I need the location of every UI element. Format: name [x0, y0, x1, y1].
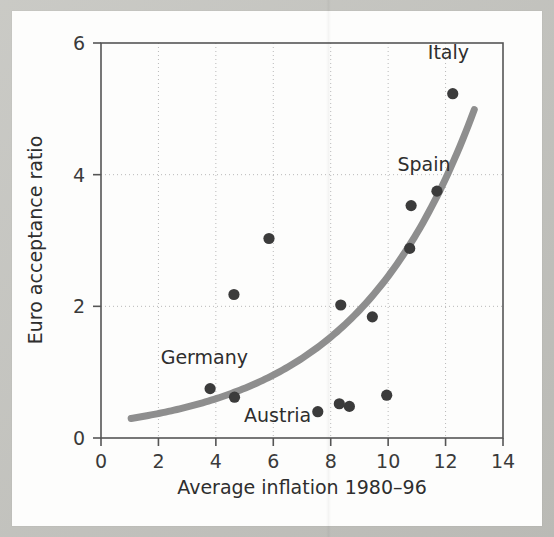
y-axis-title: Euro acceptance ratio — [24, 136, 46, 345]
data-point-spain — [431, 186, 442, 197]
data-point — [381, 390, 392, 401]
x-tick-label: 6 — [267, 450, 279, 472]
chart-container: 024681012140246 ItalySpainGermanyAustria… — [0, 0, 554, 537]
y-tick-label: 2 — [73, 295, 85, 317]
axis-ticks — [93, 43, 503, 446]
y-tick-label: 6 — [73, 32, 85, 54]
data-point — [344, 401, 355, 412]
data-point — [335, 299, 346, 310]
data-point — [263, 233, 274, 244]
x-tick-label: 12 — [433, 450, 457, 472]
x-tick-label: 0 — [95, 450, 107, 472]
data-point-germany — [205, 383, 216, 394]
x-tick-label: 8 — [325, 450, 337, 472]
annotation-italy: Italy — [428, 41, 469, 63]
data-point — [367, 311, 378, 322]
annotation-spain: Spain — [397, 153, 450, 175]
data-point — [404, 243, 415, 254]
plot-frame — [101, 43, 503, 438]
x-axis-title: Average inflation 1980–96 — [177, 476, 426, 498]
x-tick-label: 4 — [210, 450, 222, 472]
x-tick-label: 10 — [376, 450, 400, 472]
y-tick-label: 0 — [73, 427, 85, 449]
x-tick-label: 2 — [152, 450, 164, 472]
y-tick-label: 4 — [73, 164, 85, 186]
data-point — [312, 406, 323, 417]
grid-lines — [101, 43, 503, 438]
annotation-germany: Germany — [161, 346, 248, 368]
annotation-austria: Austria — [244, 404, 311, 426]
data-point — [228, 289, 239, 300]
page-background: 024681012140246 ItalySpainGermanyAustria… — [0, 0, 554, 537]
x-tick-label: 14 — [491, 450, 515, 472]
point-annotations: ItalySpainGermanyAustria — [161, 41, 469, 426]
plot-border — [101, 43, 503, 438]
data-point-austria — [229, 392, 240, 403]
scatter-chart: 024681012140246 ItalySpainGermanyAustria… — [0, 0, 554, 537]
data-point — [406, 200, 417, 211]
data-point — [334, 398, 345, 409]
data-point-italy — [447, 88, 458, 99]
